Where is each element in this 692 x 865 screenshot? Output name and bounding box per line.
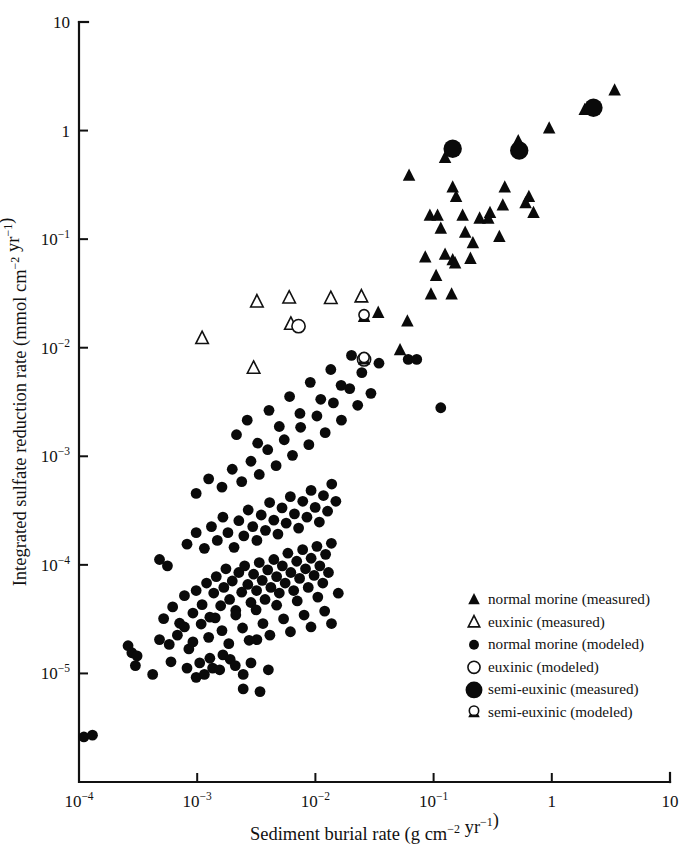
data-point [260,594,271,605]
data-point [188,608,199,619]
data-point [358,352,371,364]
data-point [336,415,347,426]
data-point [223,638,234,649]
legend-label: normal morine (measured) [488,590,650,608]
data-point [314,517,325,528]
data-point [282,548,293,559]
data-point [372,306,385,318]
y-tick-label: 10−3 [41,445,70,466]
legend-item[interactable]: normal morine (measured) [468,590,650,608]
data-point [325,291,338,303]
data-point [252,438,263,449]
data-point [227,576,238,587]
data-point [227,464,238,475]
data-point [230,610,241,621]
data-point [459,225,472,237]
chart-canvas: 10−410−310−210−111010110−110−210−310−410… [0,0,692,865]
data-point [229,542,240,553]
data-point [285,626,296,637]
x-tick-label: 10−3 [183,790,212,811]
y-tick-label: 10 [53,13,70,32]
data-point [271,571,282,582]
y-axis-title: Integrated sulfate reduction rate (mmol … [0,218,31,587]
data-point [233,515,244,526]
data-point [203,632,214,643]
data-point [608,83,621,95]
data-point [312,592,323,603]
data-point [162,560,173,571]
data-point [291,556,302,567]
legend-item[interactable]: semi-euxinic (modeled) [468,703,632,721]
data-point [238,684,249,695]
data-point [326,538,337,549]
data-point [374,358,385,369]
data-point [430,269,443,281]
data-point [401,314,414,326]
data-point [394,343,407,355]
data-point [336,380,347,391]
data-point [166,656,177,667]
data-point [314,560,325,571]
data-point [317,578,328,589]
data-point [326,479,337,490]
legend-marker-semi-filled-triangle-circle [468,706,480,717]
legend-item[interactable]: euxinic (modeled) [468,658,599,676]
data-point [431,208,444,220]
data-point [356,367,367,378]
data-point [167,601,178,612]
data-point [297,544,308,555]
data-point [251,295,264,307]
data-point [206,521,217,532]
y-tick-label: 10−1 [41,228,70,249]
data-point [224,594,235,605]
data-point [295,408,306,419]
data-point [315,394,326,405]
data-point [322,506,333,517]
data-point [243,505,254,516]
x-axis-title: Sediment burial rate (g cm−2 yr−1) [250,810,499,845]
legend-item[interactable]: euxinic (measured) [468,613,605,631]
data-point [283,291,296,303]
legend-marker-open-circle [468,661,480,673]
data-point [352,400,363,411]
y-axis-ticks: 10110−110−210−310−410−5 [41,13,88,683]
data-point [231,429,242,440]
axis-titles: Sediment burial rate (g cm−2 yr−1)Integr… [0,218,499,845]
data-point [238,669,249,680]
data-point [191,527,202,538]
data-point [292,596,303,607]
data-point [210,612,221,623]
data-point [218,512,229,523]
data-point [239,560,250,571]
legend-item[interactable]: normal morine (modeled) [469,635,644,653]
x-tick-label: 1 [548,792,557,811]
data-point [411,354,422,365]
data-point [263,664,274,675]
data-point [164,639,175,650]
data-point [277,502,288,513]
data-point [312,411,323,422]
data-point [252,535,263,546]
data-point [172,630,183,641]
data-point [256,510,267,521]
data-point [223,527,234,538]
data-point [306,485,317,496]
legend: normal morine (measured)euxinic (measure… [466,590,650,721]
data-point [237,623,248,634]
data-point [191,488,202,499]
data-point [403,168,416,180]
data-point [264,497,275,508]
series-semi-euxinic-measured- [443,99,602,160]
data-point [247,521,258,532]
data-point [300,563,311,574]
data-point [268,515,279,526]
legend-item[interactable]: semi-euxinic (measured) [466,680,639,698]
data-point [179,590,190,601]
data-point [326,618,337,629]
data-point [288,585,299,596]
data-point [493,230,506,242]
data-point [279,434,290,445]
data-point [230,660,241,671]
data-point [309,570,320,581]
data-point [366,388,377,399]
